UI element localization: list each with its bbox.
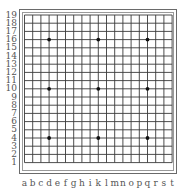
star-point-icon: [47, 136, 51, 140]
star-point-icon: [96, 87, 100, 91]
go-board[interactable]: 19181716151413121110987654321 abcdefghik…: [0, 0, 190, 194]
board-grid[interactable]: [0, 0, 190, 194]
star-point-icon: [146, 38, 150, 42]
star-point-icon: [146, 87, 150, 91]
star-point-icon: [47, 87, 51, 91]
star-point-icon: [47, 38, 51, 42]
star-point-icon: [96, 38, 100, 42]
column-label: t: [168, 179, 177, 188]
star-point-icon: [146, 136, 150, 140]
row-label: 1: [1, 158, 17, 167]
star-point-icon: [96, 136, 100, 140]
